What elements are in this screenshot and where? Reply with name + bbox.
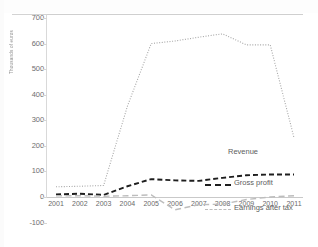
- line-chart: 7006005004003002001000-100 Thousands of …: [0, 0, 318, 247]
- legend-swatch-gross-profit: [205, 184, 231, 186]
- series-line-revenue: [56, 34, 294, 187]
- series-label-revenue: Revenue: [228, 147, 258, 156]
- legend-swatch-earnings-after-tax: [205, 209, 231, 210]
- series-label-gross-profit: Gross profit: [234, 178, 273, 187]
- series-label-earnings-after-tax: Earnings after tax: [234, 203, 293, 212]
